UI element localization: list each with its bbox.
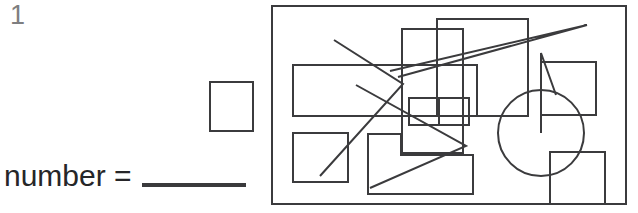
answer-blank-line[interactable] (142, 183, 246, 187)
rect-small-center-left (409, 98, 439, 125)
circle-with-wedge-notch (541, 53, 556, 133)
rect-right-upper (541, 62, 596, 115)
arrow-left-zigzag (320, 40, 403, 176)
shapes-figure (273, 7, 625, 203)
rect-right-lower (550, 152, 605, 203)
rect-top-middle-right (437, 19, 528, 116)
worksheet-page: 1 number = (0, 0, 638, 213)
answer-box[interactable] (209, 81, 254, 132)
answer-prompt: number = (4, 160, 246, 192)
rect-top-middle-left (402, 29, 463, 153)
figure-panel (271, 5, 627, 205)
rect-small-center-right (439, 98, 469, 125)
answer-prompt-label: number = (4, 160, 140, 192)
question-number: 1 (10, 2, 25, 29)
arrow-long-upper-right (390, 25, 587, 77)
arrow-lower-middle (356, 85, 466, 188)
polygon-stepped-bottom (368, 134, 473, 194)
